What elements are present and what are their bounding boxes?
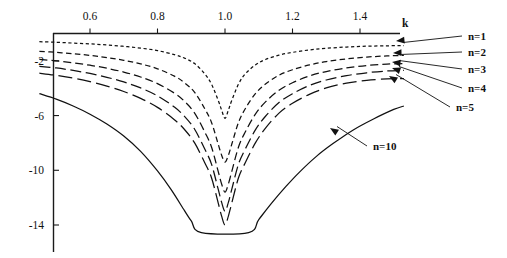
axes-group [53, 33, 400, 252]
x-tick-label: 1.2 [285, 10, 300, 22]
y-tick-label: -2 [34, 55, 44, 67]
annotation-arrowhead [330, 128, 339, 136]
annotation-arrowhead [392, 60, 401, 67]
x-tick-label: 0.6 [83, 10, 98, 22]
chart-figure: 0.60.81.01.21.4 -2-6-10-14 k n=1n=2n=3n=… [0, 0, 507, 258]
y-axis-tick-labels: -2-6-10-14 [29, 55, 45, 231]
chart-svg: 0.60.81.01.21.4 -2-6-10-14 k n=1n=2n=3n=… [0, 0, 507, 258]
annotation-leader-line [399, 61, 462, 70]
series-label-n2: n=2 [468, 46, 486, 58]
annotation-arrowhead [389, 76, 398, 83]
x-axis-tick-labels: 0.60.81.01.21.4 [83, 10, 368, 22]
x-axis-title: k [402, 17, 409, 29]
curve-n1 [39, 42, 404, 119]
y-tick-label: -10 [29, 164, 45, 176]
series-annotations-group: n=1n=2n=3n=4n=5n=10 [330, 30, 486, 152]
curve-n3 [39, 59, 404, 192]
curve-n10 [39, 94, 404, 234]
annotation-arrowhead [396, 37, 405, 44]
series-label-n3: n=3 [468, 63, 486, 75]
annotation-leader-line [403, 36, 462, 43]
series-label-n4: n=4 [468, 82, 486, 94]
x-axis-ticks [90, 29, 360, 34]
y-axis-ticks [54, 61, 60, 225]
annotation-leader-line [400, 52, 462, 55]
y-tick-label: -6 [34, 110, 44, 122]
data-curves-group [39, 42, 404, 234]
curve-n4 [39, 66, 404, 211]
x-tick-label: 0.8 [150, 10, 165, 22]
series-label-n1: n=1 [468, 30, 486, 42]
y-tick-label: -14 [29, 219, 45, 231]
x-tick-label: 1.4 [353, 10, 368, 22]
annotation-leader-line [337, 127, 367, 147]
annotation-leader-line [396, 75, 450, 108]
annotation-leader-line [399, 67, 462, 89]
series-label-n5: n=5 [456, 101, 474, 113]
series-label-n10: n=10 [373, 140, 397, 152]
x-tick-label: 1.0 [218, 10, 233, 22]
